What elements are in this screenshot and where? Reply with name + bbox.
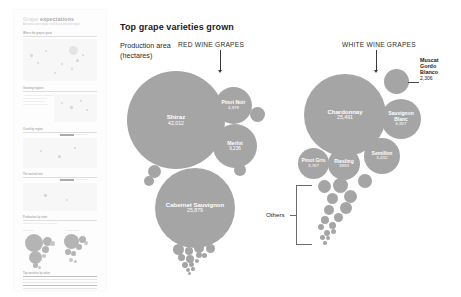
others-bracket-bottom: [296, 244, 312, 245]
thumbnail-bubble: [69, 258, 73, 262]
bubble-pinot-gris-label: Pinot Gris 3,767: [302, 158, 326, 169]
bubble-pinot-noir-label: Pinot Noir 4,978: [222, 100, 246, 111]
bubble-white-other[interactable]: [331, 229, 336, 234]
document-page-preview[interactable]: Grape expectations Australia's wine grap…: [14, 10, 106, 290]
thumbnail-title: Grape expectations: [23, 16, 74, 22]
thumbnail-bubble: [74, 260, 77, 263]
red-group-arrow-head: [218, 70, 222, 73]
bubble-white-other[interactable]: [329, 222, 336, 229]
bubble-red-small[interactable]: [191, 267, 195, 271]
bubble-white-other[interactable]: [326, 236, 330, 240]
bubble-white-other[interactable]: [324, 205, 334, 215]
bubble-red-other-4[interactable]: [234, 164, 246, 176]
bubble-red-small[interactable]: [202, 253, 207, 258]
document-thumbnail-panel: Grape expectations Australia's wine grap…: [0, 0, 118, 297]
bubble-red-other-3[interactable]: [144, 176, 154, 186]
thumbnail-bubble: [71, 251, 76, 256]
thumbnail-bubble: [50, 241, 55, 246]
bubble-cabernet-sauvignon[interactable]: Cabernet Sauvignon 25,879: [155, 168, 235, 248]
bubble-chardonnay-label: Chardonnay 25,491: [327, 109, 362, 122]
thumbnail-section-header: Where the grapes grow: [23, 32, 52, 35]
bubble-semillon-label: Semillon 5,632: [372, 151, 393, 162]
thumbnail-map: [23, 39, 97, 81]
bubble-red-small[interactable]: [178, 254, 185, 261]
thumbnail-section-header: Top varieties by value: [23, 272, 50, 275]
bubble-red-small[interactable]: [185, 247, 193, 255]
bubble-red-small[interactable]: [188, 272, 191, 275]
thumbnail-section-header: Production by state: [23, 216, 47, 219]
thumbnail-body-text: Australian wine grape production data: [23, 94, 58, 96]
thumbnail-bubble: [42, 246, 49, 253]
others-label: Others: [266, 211, 285, 218]
thumbnail-section-header: Crush by region: [23, 128, 43, 131]
others-bracket-vertical: [296, 185, 297, 245]
bubble-white-other[interactable]: [318, 224, 324, 230]
axis-label-line1: Production area: [120, 41, 171, 50]
thumbnail-bubble: [38, 266, 41, 269]
axis-label-line2: (hectares): [120, 51, 152, 60]
bubble-merlot[interactable]: Merlot 9,236: [213, 124, 257, 168]
bubble-semillon[interactable]: Semillon 5,632: [364, 138, 400, 174]
bubble-white-other[interactable]: [318, 180, 331, 193]
bubble-shiraz-label: Shiraz 42,012: [167, 114, 186, 127]
thumbnail-section-header: Growing regions: [23, 87, 44, 90]
bubble-chart: Top grape varieties grown Production are…: [118, 0, 461, 297]
red-wine-group-label: RED WINE GRAPES: [178, 41, 244, 48]
others-bracket-top: [296, 185, 312, 186]
bubble-white-other[interactable]: [323, 241, 327, 245]
red-group-arrow-stem: [220, 50, 221, 71]
thumbnail-bubble: [76, 244, 82, 250]
bubble-red-other-1[interactable]: [250, 107, 265, 122]
bubble-muscat-gordo-blanco-label: Muscat Gordo Blanco 2,306: [420, 57, 439, 81]
thumbnail-bubble: [25, 234, 43, 252]
bubble-white-other[interactable]: [320, 235, 325, 240]
chart-axis-label: Production area (hectares): [120, 41, 171, 60]
bubble-white-other[interactable]: [334, 213, 343, 222]
bubble-red-small[interactable]: [195, 259, 199, 263]
bubble-sauvignon-blanc-label: Sauvignon Blanc 6,927: [388, 111, 414, 127]
bubble-riesling[interactable]: Riesling 3893: [328, 148, 360, 180]
white-group-arrow-head: [374, 70, 378, 73]
white-group-arrow-stem: [376, 50, 377, 71]
white-wine-group-label: WHITE WINE GRAPES: [342, 41, 416, 48]
bubble-shiraz[interactable]: Shiraz 42,012: [127, 71, 225, 169]
thumbnail-bubble: [84, 241, 88, 245]
bubble-white-other[interactable]: [327, 193, 338, 204]
bubble-red-small[interactable]: [206, 244, 215, 253]
thumbnail-subtitle: Australia's wine grape crush by variety …: [23, 23, 80, 26]
chart-title: Top grape varieties grown: [120, 22, 234, 32]
thumbnail-bubble: [42, 254, 46, 258]
bubble-cabernet-sauvignon-label: Cabernet Sauvignon 25,879: [166, 202, 224, 215]
bubble-sauvignon-blanc[interactable]: Sauvignon Blanc 6,927: [381, 99, 421, 139]
muscat-leader-line: [408, 82, 419, 83]
bubble-merlot-label: Merlot 9,236: [227, 141, 243, 152]
bubble-riesling-label: Riesling 3893: [334, 159, 353, 170]
bubble-pinot-noir[interactable]: Pinot Noir 4,978: [215, 87, 252, 124]
others-bracket-tick: [290, 215, 296, 216]
thumbnail-section-header: The varietal mix: [23, 173, 43, 176]
bubble-muscat-gordo-blanco[interactable]: [384, 69, 409, 94]
bubble-pinot-gris[interactable]: Pinot Gris 3,767: [298, 148, 329, 179]
bubble-white-other[interactable]: [340, 202, 352, 214]
bubble-white-other[interactable]: [358, 174, 372, 188]
bubble-white-other[interactable]: [321, 216, 329, 224]
